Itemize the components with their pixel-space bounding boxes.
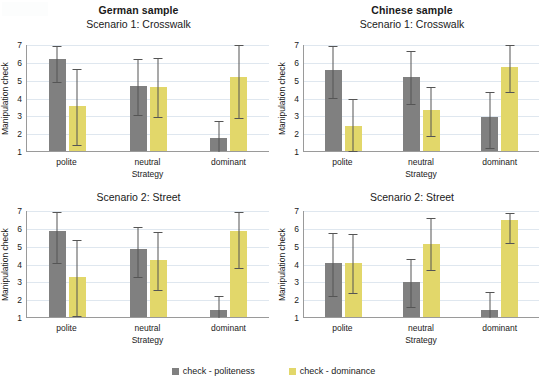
error-bar-cap [134,227,143,228]
y-tick-label: 4 [294,94,299,103]
y-axis-ticks: 1234567 [11,211,24,318]
scenario-title: Scenario 2: Street [0,190,277,205]
error-bar [509,213,510,244]
error-bar-cap [329,98,338,99]
error-bar-cap [234,118,243,119]
error-bar [411,51,412,104]
bar-slot [69,211,86,317]
error-bar-cap [73,240,82,241]
error-bar [238,45,239,118]
error-bar [353,99,354,150]
error-bar-cap [134,277,143,278]
bar-group-dominant [188,45,269,151]
error-bar-cap [234,45,243,46]
y-tick-label: 1 [17,314,22,323]
x-tick-label: polite [303,157,382,167]
scenario-title: Scenario 2: Street [277,190,547,205]
y-axis-ticks: 1234567 [288,45,301,152]
y-tick-label: 7 [294,207,299,216]
bar-slot [210,45,227,151]
x-axis-ticks: politeneutraldominant [26,157,269,167]
error-bar [218,296,219,318]
x-tick-label: neutral [382,323,461,333]
x-tick-label: dominant [188,323,269,333]
x-tick-label: neutral [107,323,188,333]
error-bar-cap [134,115,143,116]
plot-box [26,45,269,152]
bar-group-polite [27,211,108,317]
bar-group-neutral [108,45,189,151]
error-bar-cap [407,51,416,52]
plot-area: Manipulation check1234567politeneutraldo… [0,211,277,352]
error-bar-cap [154,232,163,233]
y-axis-ticks: 1234567 [288,211,301,318]
error-bar-cap [407,104,416,105]
panel-titles: German sample Scenario 1: Crosswalk [0,0,277,32]
y-axis-label: Manipulation check [0,45,10,152]
plot-box [26,211,269,318]
y-tick-label: 4 [294,260,299,269]
y-tick-label: 6 [294,225,299,234]
error-bar-cap [427,218,436,219]
error-bar-cap [485,92,494,93]
error-bar-cap [329,296,338,297]
y-axis-label: Manipulation check [0,211,10,318]
chart-legend: check - politeness check - dominance [0,366,547,376]
bar-group-dominant [461,211,539,317]
y-tick-label: 7 [17,41,22,50]
y-tick-label: 4 [17,260,22,269]
bar-group-dominant [461,45,539,151]
error-bar-cap [505,45,514,46]
plot-area: Manipulation check1234567politeneutraldo… [277,211,547,352]
error-bar-cap [427,87,436,88]
error-bar [138,59,139,115]
bar-slot [403,211,420,317]
error-bar [333,46,334,98]
bar-slot [325,211,342,317]
error-bar [431,87,432,135]
error-bar-cap [53,82,62,83]
y-tick-label: 1 [294,314,299,323]
panel-titles: Scenario 2: Street [277,186,547,205]
error-bar [57,46,58,82]
error-bar-cap [154,117,163,118]
panel-chinese-scenario-1: Chinese sample Scenario 1: Crosswalk Man… [277,0,547,186]
x-axis-label: Strategy [26,169,269,179]
bar-group-neutral [382,45,460,151]
bar-slot [481,211,498,317]
y-tick-label: 1 [17,148,22,157]
error-bar [411,259,412,307]
error-bar-cap [329,233,338,234]
y-tick-label: 3 [17,112,22,121]
bar-groups [27,45,269,151]
x-axis-label: Strategy [303,169,539,179]
error-bar-cap [349,234,358,235]
x-tick-label: polite [26,323,107,333]
error-bar-cap [53,46,62,47]
error-bar [77,240,78,315]
panel-grid: German sample Scenario 1: Crosswalk Mani… [0,0,547,352]
bar-slot [501,45,518,151]
y-tick-label: 6 [294,59,299,68]
error-bar-cap [505,243,514,244]
legend-item-dominance: check - dominance [289,366,376,376]
x-axis-ticks: politeneutraldominant [303,157,539,167]
bar-slot [345,211,362,317]
y-axis-label: Manipulation check [277,211,287,318]
error-bar-cap [134,59,143,60]
bar-group-neutral [382,211,460,317]
y-tick-label: 6 [17,225,22,234]
error-bar-cap [485,292,494,293]
x-tick-label: dominant [460,323,539,333]
bar-slot [130,45,147,151]
error-bar [353,234,354,294]
x-axis-ticks: politeneutraldominant [26,323,269,333]
bar-group-neutral [108,211,189,317]
x-tick-label: neutral [382,157,461,167]
error-bar-cap [329,46,338,47]
bar-group-polite [304,211,382,317]
bar-group-dominant [188,211,269,317]
scenario-title: Scenario 1: Crosswalk [277,17,547,32]
y-tick-label: 6 [17,59,22,68]
y-tick-label: 3 [17,278,22,287]
